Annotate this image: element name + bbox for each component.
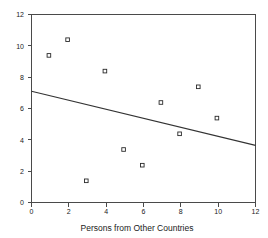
scatter-chart: 12 10 8 6 4 2 0 0 2 4 6 8 10 12 — [0, 0, 268, 238]
x-tick-label-0: 0 — [30, 208, 34, 215]
x-tick-label-12: 12 — [252, 208, 260, 215]
y-tick-label-8: 8 — [20, 74, 24, 81]
data-point — [66, 38, 70, 42]
x-axis-title: Persons from Other Countries — [81, 223, 194, 233]
y-axis-tick-labels: 12 10 8 6 4 2 0 — [16, 11, 24, 206]
x-tick-label-6: 6 — [142, 208, 146, 215]
y-tick-label-0: 0 — [20, 199, 24, 206]
x-tick-label-8: 8 — [179, 208, 183, 215]
plot-area: 12 10 8 6 4 2 0 0 2 4 6 8 10 12 — [0, 0, 268, 238]
data-point — [215, 116, 219, 120]
data-point — [141, 163, 145, 167]
x-tick-label-2: 2 — [67, 208, 71, 215]
x-tick-label-10: 10 — [214, 208, 222, 215]
y-axis-ticks — [28, 15, 32, 203]
data-point — [47, 54, 51, 58]
data-point — [178, 132, 182, 136]
x-axis-ticks — [32, 203, 256, 207]
plot-frame — [32, 15, 256, 203]
data-point — [85, 179, 89, 183]
data-point — [197, 85, 201, 89]
data-point — [122, 148, 126, 152]
data-point — [103, 69, 107, 73]
x-tick-label-4: 4 — [104, 208, 108, 215]
y-tick-label-4: 4 — [20, 137, 24, 144]
y-tick-label-6: 6 — [20, 105, 24, 112]
y-tick-label-10: 10 — [16, 43, 24, 50]
x-axis-tick-labels: 0 2 4 6 8 10 12 — [30, 208, 260, 215]
data-points — [47, 38, 219, 183]
regression-line — [32, 91, 256, 145]
y-tick-label-2: 2 — [20, 168, 24, 175]
data-point — [159, 101, 163, 105]
y-tick-label-12: 12 — [16, 11, 24, 18]
